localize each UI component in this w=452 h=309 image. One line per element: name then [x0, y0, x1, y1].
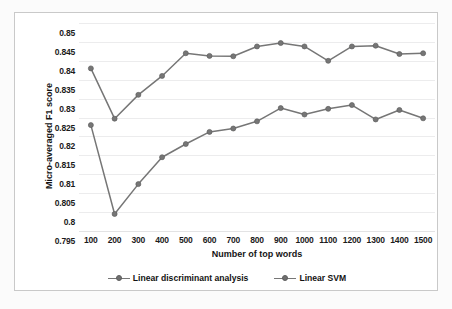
- y-axis-tick-label: 0.85: [59, 28, 75, 38]
- x-axis-tick-label: 1500: [414, 235, 432, 245]
- legend-item[interactable]: Linear SVM: [274, 273, 346, 283]
- legend-label: Linear SVM: [299, 273, 346, 283]
- data-point: [136, 92, 141, 97]
- data-point: [183, 51, 188, 56]
- data-point: [373, 117, 378, 122]
- y-axis-tick-label: 0.83: [59, 104, 75, 114]
- x-axis-tick-labels: 1002003004005006007008009001000110012001…: [79, 235, 435, 249]
- data-point: [302, 112, 307, 117]
- y-axis-tick-label: 0.845: [55, 47, 75, 57]
- series-line: [91, 43, 423, 119]
- legend-marker-icon: [274, 274, 296, 283]
- y-axis-tick-label: 0.805: [55, 198, 75, 208]
- y-axis-tick-label: 0.8: [64, 217, 75, 227]
- chart-legend: Linear discriminant analysisLinear SVM: [15, 269, 439, 287]
- legend-marker-icon: [108, 274, 130, 283]
- series-linear-discriminant-analysis: [88, 103, 425, 217]
- gridline: [79, 231, 435, 232]
- data-point: [397, 107, 402, 112]
- x-axis-tick-label: 1100: [319, 235, 337, 245]
- x-axis-tick-label: 400: [155, 235, 169, 245]
- y-axis-tick-label: 0.795: [55, 236, 75, 246]
- x-axis-tick-label: 1300: [367, 235, 385, 245]
- data-point: [231, 126, 236, 131]
- data-point: [183, 142, 188, 147]
- data-point: [373, 43, 378, 48]
- data-point: [349, 44, 354, 49]
- data-point: [88, 66, 93, 71]
- y-axis-tick-label: 0.825: [55, 123, 75, 133]
- data-point: [421, 116, 426, 121]
- data-point: [326, 58, 331, 63]
- x-axis-tick-label: 900: [274, 235, 288, 245]
- x-axis-tick-label: 1400: [390, 235, 408, 245]
- data-point: [326, 106, 331, 111]
- chart-screenshot: Micro-averaged F1 score 0.7950.80.8050.8…: [0, 0, 452, 309]
- y-axis-tick-label: 0.81: [59, 179, 75, 189]
- plot-area: [79, 23, 435, 231]
- legend-label: Linear discriminant analysis: [133, 273, 249, 283]
- data-point: [160, 155, 165, 160]
- x-axis-tick-label: 600: [203, 235, 217, 245]
- data-point: [302, 44, 307, 49]
- x-axis-title: Number of top words: [79, 249, 435, 259]
- x-axis-tick-label: 200: [108, 235, 122, 245]
- data-point: [207, 53, 212, 58]
- x-axis-tick-label: 700: [226, 235, 240, 245]
- x-axis-tick-label: 1200: [343, 235, 361, 245]
- y-axis-tick-label: 0.815: [55, 160, 75, 170]
- data-point: [397, 52, 402, 57]
- data-point: [88, 123, 93, 128]
- legend-item[interactable]: Linear discriminant analysis: [108, 273, 249, 283]
- x-axis-tick-label: 300: [132, 235, 146, 245]
- series-layer: [79, 23, 435, 231]
- data-point: [255, 44, 260, 49]
- data-point: [231, 54, 236, 59]
- data-point: [136, 182, 141, 187]
- data-point: [278, 106, 283, 111]
- data-point: [255, 119, 260, 124]
- x-axis-tick-label: 500: [179, 235, 193, 245]
- data-point: [112, 211, 117, 216]
- chart-frame: Micro-averaged F1 score 0.7950.80.8050.8…: [14, 12, 438, 291]
- y-axis-tick-labels: 0.7950.80.8050.810.8150.820.8250.830.835…: [15, 23, 75, 231]
- y-axis-tick-label: 0.84: [59, 66, 75, 76]
- x-axis-tick-label: 800: [250, 235, 264, 245]
- data-point: [349, 103, 354, 108]
- y-axis-tick-label: 0.82: [59, 141, 75, 151]
- x-axis-tick-label: 1000: [295, 235, 313, 245]
- data-point: [207, 129, 212, 134]
- series-linear-svm: [88, 41, 425, 122]
- data-point: [160, 73, 165, 78]
- x-axis-tick-label: 100: [84, 235, 98, 245]
- data-point: [278, 41, 283, 46]
- data-point: [421, 51, 426, 56]
- y-axis-tick-label: 0.835: [55, 85, 75, 95]
- data-point: [112, 116, 117, 121]
